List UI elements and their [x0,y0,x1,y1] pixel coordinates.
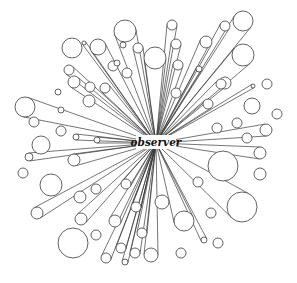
sight-line [156,143,174,223]
object-circle [109,215,121,227]
object-circle [58,228,88,258]
object-circle [73,134,79,140]
object-circle [116,243,126,253]
object-circle [114,60,120,66]
object-circle [15,97,35,117]
object-circle [94,137,100,143]
object-circle [201,237,207,243]
object-circle [55,89,61,95]
object-circle [29,117,39,127]
object-circle [232,118,242,128]
object-circle [83,95,95,107]
object-circle [193,177,203,187]
object-circle [131,202,141,212]
object-circle [200,36,212,48]
object-circle [220,21,230,31]
object-circle [133,43,143,53]
object-circle [144,47,166,69]
object-circle [122,259,128,265]
observer-diagram: observer [0,0,297,283]
object-circle [171,88,181,98]
object-circle [260,124,272,136]
observer-label: observer [131,136,183,148]
object-circle [155,195,169,209]
object-circle [212,123,222,133]
object-circle [174,211,194,231]
object-circle [90,39,106,55]
object-circle [137,228,147,238]
object-circle [233,11,253,31]
object-circle [64,65,74,75]
object-circle [251,84,255,88]
object-circle [85,82,95,92]
object-circle [144,248,158,262]
object-circle [18,168,28,178]
object-circle [208,151,238,181]
object-circle [91,184,101,194]
object-circle [216,79,226,89]
object-circle [101,253,111,263]
object-circle [213,238,223,248]
object-circle [206,208,216,218]
sight-line [156,71,202,143]
object-circle [100,83,110,93]
sight-line [111,143,156,260]
object-circle [58,107,64,113]
object-circle [173,60,183,70]
object-circle [82,41,86,45]
object-circle [74,191,86,203]
object-circle [254,147,266,159]
object-circle [120,42,126,48]
object-circle [196,66,202,72]
object-circle [242,133,252,143]
object-circle [272,109,282,119]
object-circle [227,192,257,222]
object-circle [122,68,132,78]
object-circle [171,39,181,49]
object-circle [56,126,66,136]
object-circle [40,174,62,196]
object-circle [62,38,82,58]
object-circle [167,20,177,30]
object-circle [68,154,80,166]
object-circle [232,44,254,66]
object-circle [254,168,266,180]
object-circle [25,153,33,161]
object-circle [32,136,50,154]
object-circle [262,79,272,89]
object-circle [91,230,101,240]
object-circle [244,98,260,114]
object-circle [31,207,43,219]
object-circle [114,20,136,42]
object-circle [176,248,186,258]
object-circle [203,99,213,109]
object-circle [68,76,80,88]
object-circle [130,248,140,258]
object-circle [121,179,131,189]
object-circle [75,213,87,225]
